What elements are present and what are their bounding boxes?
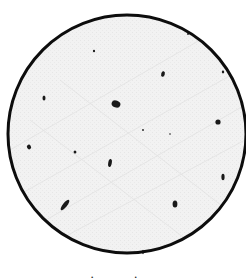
spot-blob: [215, 119, 220, 124]
microscope-field: [0, 0, 246, 278]
spot-caret-mark: [43, 95, 46, 100]
spot-dot: [93, 50, 95, 53]
caption-fragment: · ·: [0, 270, 246, 278]
spot-dot: [169, 133, 171, 135]
spot-small-rod: [221, 174, 224, 180]
spot-dot: [142, 129, 144, 131]
spot-dot: [74, 150, 77, 153]
spot-dot: [222, 71, 224, 74]
spot-crescent: [173, 200, 178, 207]
